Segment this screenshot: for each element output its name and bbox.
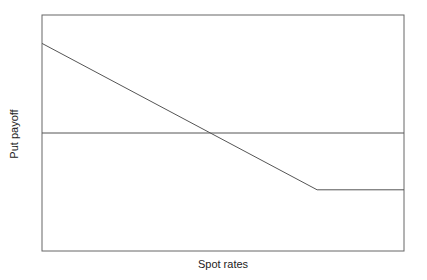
y-axis-label: Put payoff (8, 109, 20, 158)
plot-area (42, 43, 404, 189)
x-axis-label: Spot rates (198, 258, 248, 270)
put-payoff-line (42, 43, 404, 189)
put-payoff-chart (0, 0, 427, 280)
